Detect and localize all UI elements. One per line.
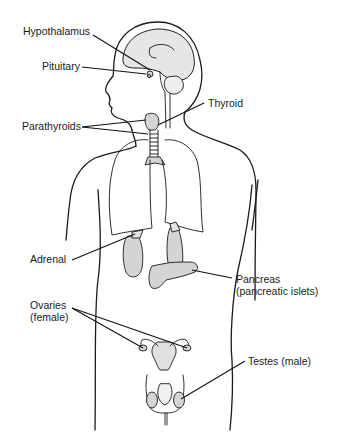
label-parathyroids: Parathyroids <box>22 120 81 132</box>
uterus-ovaries <box>139 339 191 370</box>
testes <box>146 375 185 425</box>
pituitary-gland <box>147 71 153 78</box>
label-ovaries: Ovaries <box>30 299 66 311</box>
label-adrenal: Adrenal <box>30 253 66 265</box>
pancreas <box>149 262 197 288</box>
label-testes: Testes (male) <box>248 355 311 367</box>
label-thyroid: Thyroid <box>208 97 243 109</box>
label-pancreas: Pancreas <box>236 273 280 285</box>
label-ovaries-sub: (female) <box>30 311 69 323</box>
label-pituitary: Pituitary <box>42 60 80 72</box>
thyroid-gland <box>145 113 159 130</box>
label-pancreas-sub: (pancreatic islets) <box>236 285 318 297</box>
label-hypothalamus: Hypothalamus <box>23 25 90 37</box>
